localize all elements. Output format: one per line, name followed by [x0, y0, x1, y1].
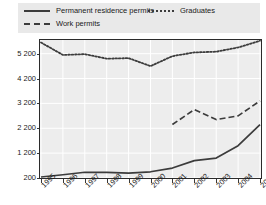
legend-label-permanent-residence-permits: Permanent residence permits — [56, 6, 154, 15]
y-axis-tick-label: 200 — [2, 174, 36, 182]
y-axis: 2001 2002 2003 2004 2005 200 — [0, 0, 36, 205]
plot-svg — [40, 40, 261, 178]
y-axis-tick-label: 2 200 — [2, 124, 36, 132]
chart-legend: Permanent residence permits Graduates Wo… — [18, 3, 260, 33]
legend-item-permanent-residence-permits: Permanent residence permits — [24, 6, 154, 15]
y-axis-tick-label: 4 200 — [2, 75, 36, 83]
legend-item-graduates: Graduates — [148, 6, 215, 15]
plot-area — [39, 39, 262, 179]
chart-screenshot: Permanent residence permits Graduates Wo… — [0, 0, 266, 205]
y-axis-tick-label: 5 200 — [2, 50, 36, 58]
dotted-line-icon — [148, 6, 174, 15]
legend-label-work-permits: Work permits — [56, 19, 100, 28]
y-axis-tick-label: 3 200 — [2, 99, 36, 107]
y-axis-tick-label: 1 200 — [2, 149, 36, 157]
legend-label-graduates: Graduates — [180, 6, 215, 15]
